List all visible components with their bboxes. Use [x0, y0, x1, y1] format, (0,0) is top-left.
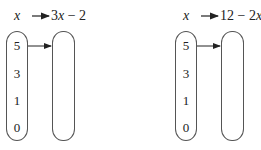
input-value: 0	[175, 121, 197, 134]
input-value: 3	[6, 67, 28, 80]
input-oval: 5 3 1 0	[175, 31, 197, 141]
input-value: 5	[175, 39, 197, 52]
input-value: 0	[6, 121, 28, 134]
output-oval	[221, 31, 244, 141]
input-value: 5	[6, 39, 28, 52]
input-value: 1	[6, 94, 28, 107]
input-value: 1	[175, 94, 197, 107]
function-label: 12 − 2x	[220, 9, 261, 23]
input-label: x	[183, 9, 189, 23]
input-value: 3	[175, 67, 197, 80]
function-label: 3x − 2	[51, 9, 86, 23]
input-oval: 5 3 1 0	[6, 31, 28, 141]
input-label: x	[14, 9, 20, 23]
output-oval	[52, 31, 75, 141]
